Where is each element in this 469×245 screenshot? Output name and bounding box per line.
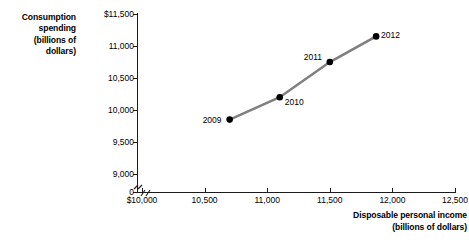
x-axis-title-line-2: (billions of dollars) (283, 222, 467, 234)
data-point-marker (226, 116, 233, 123)
data-point-label-2010: 2010 (285, 98, 304, 107)
data-point-label-2011: 2011 (304, 53, 322, 62)
data-point-marker (276, 94, 283, 101)
x-axis-title: Disposable personal income (billions of … (283, 210, 467, 233)
data-point-label-2009: 2009 (203, 116, 222, 125)
consumption-function-chart: Consumption spending (billions of dollar… (0, 0, 469, 245)
x-axis-title-line-1: Disposable personal income (283, 210, 467, 222)
data-point-marker (373, 33, 380, 40)
data-point-marker (327, 59, 334, 66)
data-point-label-2012: 2012 (381, 31, 400, 40)
